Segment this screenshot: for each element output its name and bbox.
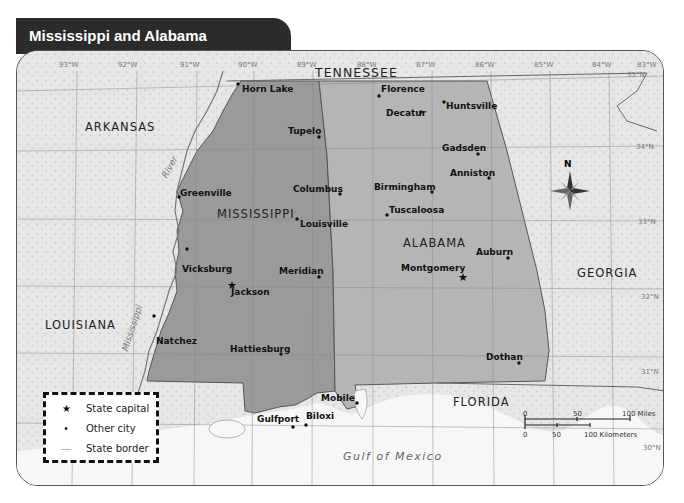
city-label-greenville: Greenville [180,188,232,198]
lon-label-90: 90°W [238,61,257,69]
city-label-huntsville: Huntsville [446,101,497,111]
lon-label-91: 91°W [180,61,199,69]
lat-label-31: 31°N [641,368,659,376]
star-icon: ★ [54,403,78,414]
city-label-decatur: Decatur [386,108,426,118]
city-label-tupelo: Tupelo [288,126,321,136]
lon-label-87: 87°W [416,61,435,69]
state-label-louisiana: LOUISIANA [45,318,116,332]
lon-label-93: 93°W [59,61,78,69]
lat-label-35: 35°N [627,71,645,79]
city-label-biloxi: Biloxi [306,411,334,421]
legend-item-other-city: • Other city [46,423,156,441]
lat-label-30: 30°N [643,444,661,452]
line-icon: — [54,443,78,454]
legend-item-state-border: — State border [46,443,156,461]
legend-label: State border [86,443,149,454]
lat-label-32: 32°N [641,293,659,301]
dot-icon: • [54,423,78,434]
lon-label-86: 86°W [475,61,494,69]
water-label-gulf-of-mexico: Gulf of Mexico [343,450,443,463]
city-label-meridian: Meridian [279,266,324,276]
scale-miles-mid: 50 [573,410,582,418]
city-label-dothan: Dothan [486,352,523,362]
map-title: Mississippi and Alabama [29,27,207,44]
city-label-jackson: Jackson [231,287,270,297]
city-label-horn-lake: Horn Lake [242,84,293,94]
legend-label: Other city [86,423,136,434]
scale-miles-end: 100 Miles [622,410,655,418]
lon-label-84: 84°W [592,61,611,69]
city-label-montgomery: Montgomery [401,263,465,273]
lon-label-89: 89°W [297,61,316,69]
city-label-birmingham: Birmingham [374,182,436,192]
city-label-gadsden: Gadsden [442,143,486,153]
city-label-vicksburg: Vicksburg [182,264,232,274]
city-label-anniston: Anniston [450,168,495,178]
scale-km-zero: 0 [523,431,527,439]
legend-label: State capital [86,403,149,414]
scale-km-end: 100 Kilometers [584,431,637,439]
lon-label-85: 85°W [534,61,553,69]
city-label-mobile: Mobile [321,393,355,403]
state-label-alabama: ALABAMA [403,236,466,250]
city-label-tuscaloosa: Tuscaloosa [389,205,444,215]
lat-label-33: 33°N [638,218,656,226]
city-label-natchez: Natchez [156,336,197,346]
lon-label-83: 83°W [637,61,656,69]
state-label-arkansas: ARKANSAS [85,120,155,134]
scale-km-mid: 50 [552,431,561,439]
city-label-gulfport: Gulfport [257,414,299,424]
scale-miles-zero: 0 [523,410,527,418]
state-label-florida: FLORIDA [453,395,510,409]
city-label-auburn: Auburn [476,247,513,257]
lat-label-34: 34°N [636,143,654,151]
state-label-mississippi: MISSISSIPPI [217,207,295,221]
map-legend: ★ State capital • Other city — State bor… [43,392,159,463]
state-label-tennessee: TENNESSEE [315,65,398,80]
city-label-hattiesburg: Hattiesburg [230,344,291,354]
compass-north-label: N [564,159,572,169]
city-label-florence: Florence [381,84,425,94]
lon-label-92: 92°W [118,61,137,69]
city-label-columbus: Columbus [293,184,343,194]
legend-item-state-capital: ★ State capital [46,403,156,421]
city-label-louisville: Louisville [300,219,348,229]
state-label-georgia: GEORGIA [577,266,637,280]
